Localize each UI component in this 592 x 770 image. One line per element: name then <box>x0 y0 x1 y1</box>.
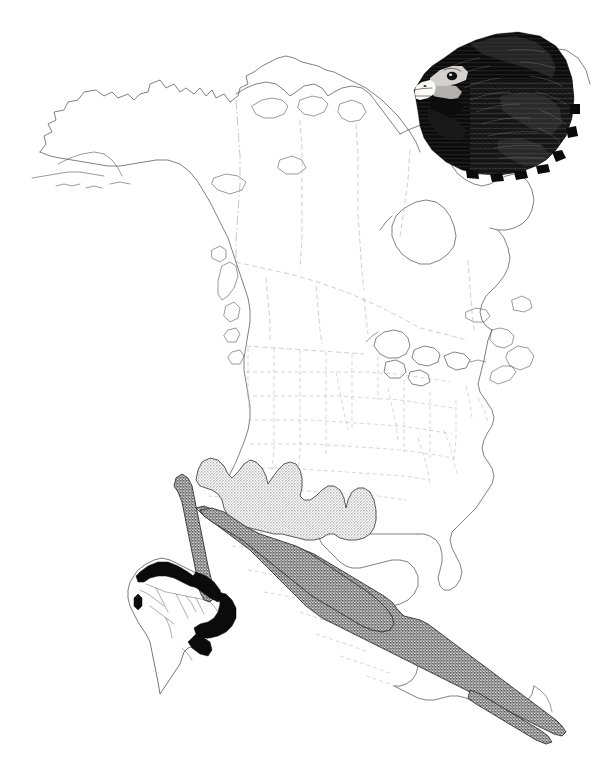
range-map-figure <box>0 0 592 770</box>
map-canvas <box>0 0 592 770</box>
